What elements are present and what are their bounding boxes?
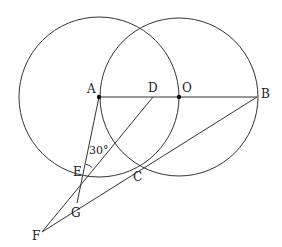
angle-label-30: 30° xyxy=(89,144,109,157)
point-label-B: B xyxy=(261,87,270,101)
angle-arc xyxy=(86,164,92,167)
point-label-E: E xyxy=(73,165,82,179)
point-O-dot xyxy=(177,95,181,99)
point-label-D: D xyxy=(148,81,158,95)
point-labels: ADOBECGF xyxy=(32,81,270,243)
geometry-diagram: ADOBECGF 30° xyxy=(0,0,282,247)
point-label-C: C xyxy=(133,170,142,184)
point-label-F: F xyxy=(32,229,40,243)
point-label-G: G xyxy=(71,206,81,220)
point-label-O: O xyxy=(182,81,192,95)
angle-arc-E xyxy=(86,164,92,167)
point-A-dot xyxy=(97,95,101,99)
segment-DF xyxy=(42,97,153,232)
point-label-A: A xyxy=(86,82,96,96)
